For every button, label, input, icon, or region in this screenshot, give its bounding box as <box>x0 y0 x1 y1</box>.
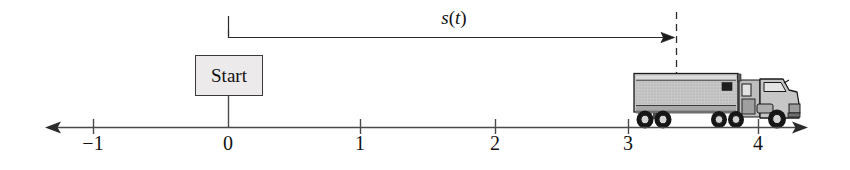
number-line-axis <box>45 119 808 134</box>
axis-tick-label-3: 3 <box>608 133 648 153</box>
truck-trailer <box>634 74 738 114</box>
distance-function-label-paren-close: ) <box>460 7 466 28</box>
number-line-figure: Start s(t) −1 0 1 2 3 4 <box>0 0 850 170</box>
distance-function-label: s(t) <box>424 8 484 27</box>
truck-wheel <box>728 111 744 128</box>
truck-wheel <box>768 110 786 129</box>
axis-tick-label-2: 2 <box>475 133 515 153</box>
axis-tick-label-minus1: −1 <box>73 133 113 153</box>
start-marker-box: Start <box>195 55 263 96</box>
truck-cab <box>738 74 801 118</box>
distance-function-label-s: s <box>441 7 448 28</box>
truck-wheel <box>655 111 672 129</box>
axis-tick-label-4: 4 <box>738 133 778 153</box>
axis-tick-label-1: 1 <box>340 133 380 153</box>
truck-wheel <box>637 111 654 129</box>
measurement-span-line <box>229 30 667 38</box>
semi-truck <box>634 74 800 129</box>
truck-wheel <box>711 111 727 128</box>
axis-tick-label-0: 0 <box>208 133 248 153</box>
start-marker-label: Start <box>211 66 247 85</box>
